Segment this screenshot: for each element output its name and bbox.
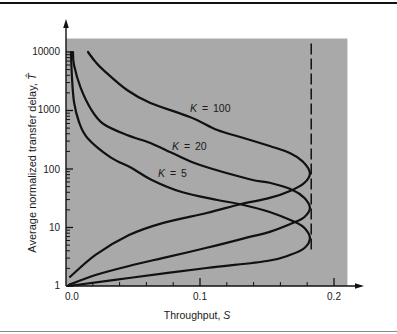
y-axis-arrow-icon (63, 19, 69, 28)
curve-label-k-5: K = 5 (158, 166, 187, 180)
x-axis-title-text: Throughput, (164, 309, 224, 321)
bottom-rule (0, 331, 397, 332)
curve-label-value: = 100 (197, 102, 231, 114)
xtick-label-0: 0.0 (65, 290, 79, 304)
curve-label-var: K (158, 167, 165, 179)
curve-label-k-20: K = 20 (172, 139, 207, 153)
ytick-label-1000: 1000 (38, 103, 60, 117)
y-axis-title: Average normalized transfer delay, T̂ (25, 73, 39, 252)
ytick-label-1: 1 (54, 279, 60, 293)
x-axis-title-var: S (223, 309, 230, 321)
y-axis-title-text: Average normalized transfer delay, (26, 80, 38, 253)
curve-label-value: = 20 (179, 140, 207, 152)
ytick-label-10000: 10000 (32, 45, 60, 59)
y-axis-title-var: T̂ (26, 73, 38, 80)
ytick-label-10: 10 (49, 221, 60, 235)
ytick-label-100: 100 (43, 163, 60, 177)
curve-label-value: = 5 (165, 167, 187, 179)
x-axis-arrow-icon (355, 283, 364, 289)
curve-label-k-100: K = 100 (190, 101, 231, 115)
xtick-label-0-2: 0.2 (319, 290, 349, 304)
curve-label-var: K (190, 102, 197, 114)
curve-label-var: K (172, 140, 179, 152)
figure: 10000 1000 100 10 1 0.0 0.1 0.2 Throughp… (0, 0, 397, 334)
x-axis-title: Throughput, S (147, 308, 247, 322)
xtick-label-0-1: 0.1 (185, 290, 215, 304)
